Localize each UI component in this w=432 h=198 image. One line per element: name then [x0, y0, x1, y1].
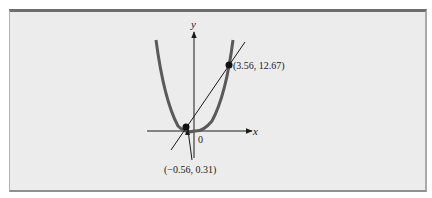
intersection-point-upper — [226, 62, 233, 69]
secant-line — [171, 42, 245, 150]
point-label-upper: (3.56, 12.67) — [233, 60, 285, 72]
x-axis-label: x — [252, 125, 258, 137]
y-axis-label: y — [190, 18, 196, 30]
intersection-point-lower — [183, 124, 190, 131]
diagram: y x 0 (3.56, 12.67) (−0.56, 0.31) — [0, 0, 432, 198]
origin-label: 0 — [198, 134, 203, 145]
point-label-lower: (−0.56, 0.31) — [164, 164, 216, 176]
